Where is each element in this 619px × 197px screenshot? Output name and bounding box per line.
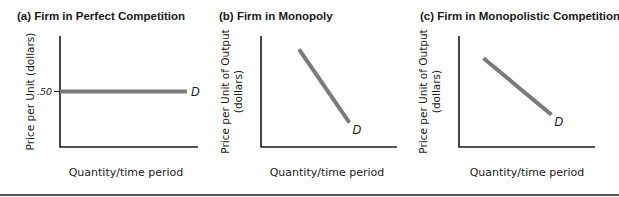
y-tick-label-a: .50 [37,86,52,97]
chart-title-a: (a) Firm in Perfect Competition [17,10,185,22]
y-axis-label-c: (dollars) [430,70,442,113]
x-axis-label-a: Quantity/time period [69,166,184,179]
x-axis-label-c: Quantity/time period [470,166,585,179]
curve-label-a: D [191,85,200,99]
chart-title-c: (c) Firm in Monopolistic Competition [420,10,619,22]
y-axis-label-b: (dollars) [232,70,244,113]
figure: (a) Firm in Perfect Competition.50Price … [0,0,619,197]
demand-curve-b [299,49,349,122]
y-axis-label-b: Price per Unit of Output [219,29,231,153]
y-axis-label-a: Price per Unit (dollars) [24,33,36,151]
axes-c [459,36,595,147]
demand-curve-c [483,58,551,115]
curve-label-c: D [554,115,563,129]
y-axis-label-c: Price per Unit of Output [417,29,429,153]
chart-title-b: (b) Firm in Monopoly [219,10,333,22]
x-axis-label-b: Quantity/time period [270,166,385,179]
curve-label-b: D [352,123,361,137]
